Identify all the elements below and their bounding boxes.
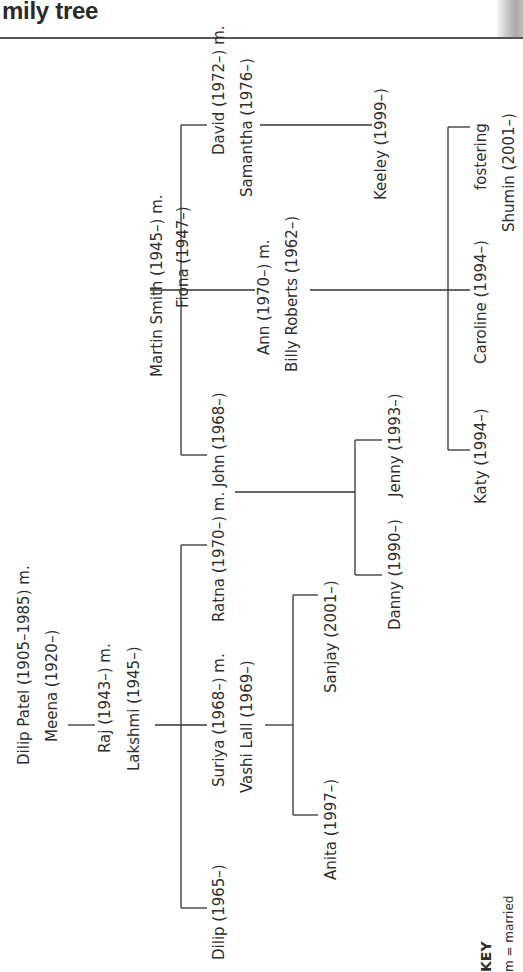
person-keeley: Keeley (1999–) — [372, 88, 390, 200]
person-vashi-lall: Vashi Lall (1969–) — [238, 660, 256, 793]
person-shumin: Shumin (2001–) — [500, 113, 518, 232]
person-fiona: Fiona (1947–) — [174, 206, 192, 308]
person-danny: Danny (1990–) — [386, 519, 404, 630]
label-fostering: fostering — [472, 123, 490, 190]
key-married-definition: m = married — [500, 896, 518, 972]
person-martin-smith: Martin Smith (1945–) m. — [148, 194, 166, 377]
person-dilip-patel: Dilip Patel (1905–1985) m. — [15, 565, 33, 765]
person-meena: Meena (1920–) — [43, 630, 61, 742]
person-ratna-john: Ratna (1970–) m. John (1968–) — [210, 392, 228, 622]
person-dilip: Dilip (1965–) — [210, 864, 228, 960]
person-billy-roberts: Billy Roberts (1962–) — [283, 216, 301, 372]
person-sanjay: Sanjay (2001–) — [322, 580, 340, 693]
person-caroline: Caroline (1994–) — [472, 240, 490, 364]
person-katy: Katy (1994–) — [472, 408, 490, 504]
tree-connector-lines — [0, 0, 523, 972]
person-jenny: Jenny (1993–) — [386, 393, 404, 497]
person-anita: Anita (1997–) — [322, 779, 340, 880]
person-david: David (1972–) m. — [210, 25, 228, 155]
person-lakshmi: Lakshmi (1945–) — [125, 647, 143, 771]
person-suriya: Suriya (1968–) m. — [210, 653, 228, 787]
key-title: KEY — [477, 941, 495, 972]
person-ann: Ann (1970–) m. — [255, 239, 273, 355]
person-samantha: Samantha (1976–) — [238, 58, 256, 197]
person-raj: Raj (1943–) m. — [96, 643, 114, 753]
